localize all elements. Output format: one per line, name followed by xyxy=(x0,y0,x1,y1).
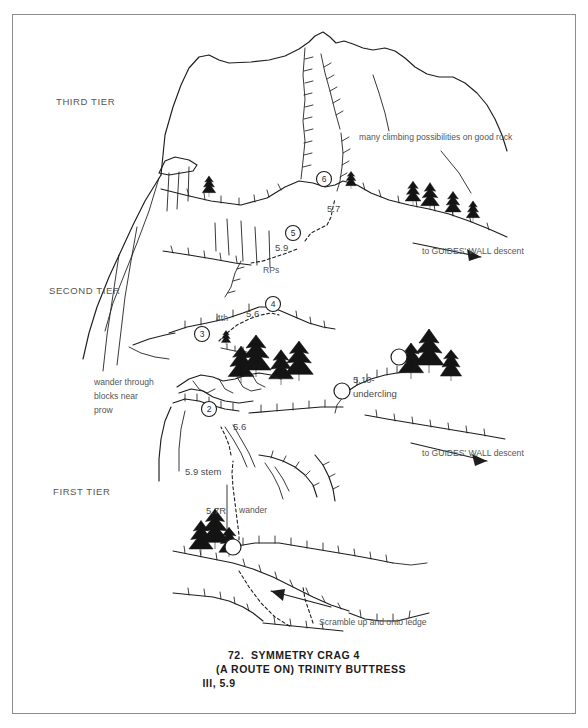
caption-line-1: 72. SYMMETRY CRAG 4 xyxy=(0,648,588,662)
note-wander-lower: wander xyxy=(238,505,267,515)
grade-5-10-minus: 5.10- xyxy=(353,374,375,385)
belay-station-6[interactable]: 6 xyxy=(317,172,332,187)
grade-undercling: undercling xyxy=(353,388,397,399)
belay-station-4[interactable]: 4 xyxy=(266,297,281,312)
label-third-tier: THIRD TIER xyxy=(56,96,115,107)
caption-line-2: (A ROUTE ON) TRINITY BUTTRESS xyxy=(0,662,588,676)
note-wander-through: wander through xyxy=(93,377,154,387)
topo-page: 6 5 4 3 2 xyxy=(0,0,588,728)
note-rps: RPs xyxy=(263,265,279,275)
note-descent-upper: to GUIDES' WALL descent xyxy=(422,246,524,256)
note-prow: prow xyxy=(94,405,113,415)
tree-cluster-mid xyxy=(228,329,462,385)
note-descent-lower: to GUIDES' WALL descent xyxy=(422,448,524,458)
third-tier-skyline xyxy=(83,32,507,371)
note-scramble: Scramble up and onto ledge xyxy=(319,617,427,627)
belay-station-2[interactable]: 2 xyxy=(202,402,217,417)
grade-5-7: 5.7 xyxy=(327,203,340,214)
anchor-circle-upper-right[interactable] xyxy=(391,349,407,365)
summit-flake xyxy=(159,157,197,211)
tree-cluster-upper xyxy=(202,171,480,222)
note-labels-group: many climbing possibilities on good rock… xyxy=(93,132,524,627)
grade-5-6-lower: 5.6 xyxy=(233,421,246,432)
grade-5-7r: 5.7R xyxy=(206,505,226,516)
ledge-arrow-left xyxy=(271,589,331,607)
anchor-circle-undercling[interactable] xyxy=(334,383,350,399)
figure-caption: 72. SYMMETRY CRAG 4 (A ROUTE ON) TRINITY… xyxy=(0,648,588,690)
caption-line-3: III, 5.9 xyxy=(0,676,438,690)
note-good-rock: many climbing possibilities on good rock xyxy=(359,132,513,142)
grade-5-9-upper: 5.9 xyxy=(275,242,288,253)
anchor-circle-pitch-1[interactable] xyxy=(225,539,241,555)
second-tier-right-ledge xyxy=(249,400,505,439)
belay-label-6: 6 xyxy=(322,174,327,184)
belay-label-2: 2 xyxy=(207,404,212,414)
prow-blocks xyxy=(159,373,281,481)
second-tier-slabs xyxy=(163,219,270,267)
third-tier-cracks xyxy=(301,48,389,191)
tier-labels-group: THIRD TIER SECOND TIER FIRST TIER xyxy=(49,96,120,497)
note-blocks-near: blocks near xyxy=(94,391,138,401)
topo-drawing: 6 5 4 3 2 xyxy=(13,15,575,713)
label-first-tier: FIRST TIER xyxy=(53,486,110,497)
grade-5-6-upper: 5.6 xyxy=(246,308,259,319)
note-leader-line xyxy=(441,151,471,193)
belay-stations-group: 6 5 4 3 2 xyxy=(195,172,332,417)
belay-station-5[interactable]: 5 xyxy=(286,226,301,241)
grade-5-9-stem: 5.9 stem xyxy=(185,466,222,477)
note-4th-class: 4th xyxy=(216,313,228,323)
first-tier-right-rock xyxy=(259,451,339,501)
label-second-tier: SECOND TIER xyxy=(49,285,120,296)
topo-frame-border: 6 5 4 3 2 xyxy=(12,14,576,714)
belay-station-3[interactable]: 3 xyxy=(195,327,210,342)
plain-circles-group xyxy=(225,349,407,555)
belay-label-3: 3 xyxy=(200,329,205,339)
belay-label-4: 4 xyxy=(271,299,276,309)
belay-label-5: 5 xyxy=(291,228,296,238)
